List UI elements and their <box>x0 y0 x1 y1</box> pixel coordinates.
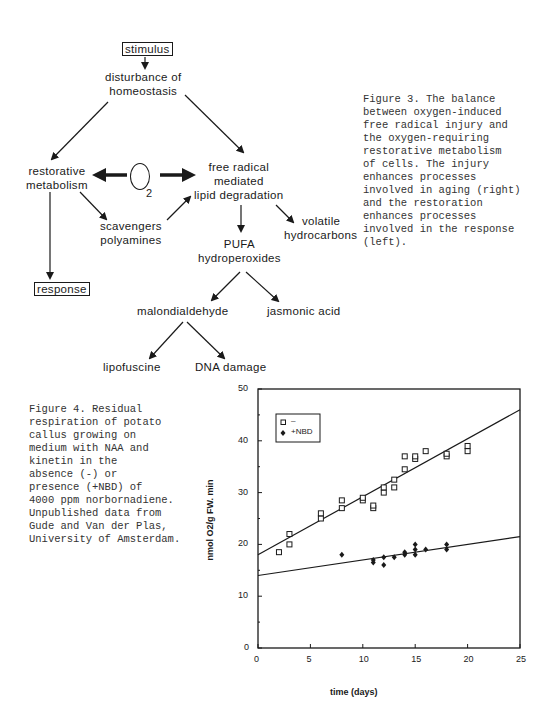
legend-square-icon <box>281 420 286 425</box>
data-point-diamond <box>339 552 344 558</box>
x-axis-title: time (days) <box>330 687 378 697</box>
data-point-square <box>339 498 344 503</box>
data-point-square <box>413 454 418 459</box>
data-point-square <box>392 477 397 482</box>
data-point-diamond <box>413 541 418 547</box>
data-point-square <box>392 485 397 490</box>
legend-label-nbd: +NBD <box>291 427 313 436</box>
y-tick-label: 10 <box>238 590 248 600</box>
data-point-square <box>402 467 407 472</box>
data-point-square <box>339 506 344 511</box>
data-point-diamond <box>381 554 386 560</box>
data-point-square <box>381 490 386 495</box>
data-point-square <box>287 542 292 547</box>
y-tick-label: 30 <box>238 487 248 497</box>
data-point-square <box>465 443 470 448</box>
data-point-diamond <box>381 562 386 568</box>
data-point-square <box>423 449 428 454</box>
data-point-square <box>465 449 470 454</box>
y-axis-title: nmol O2/g FW. min <box>205 455 215 585</box>
x-tick-label: 20 <box>464 654 474 664</box>
data-point-square <box>287 532 292 537</box>
x-tick-label: 5 <box>306 654 311 664</box>
data-point-diamond <box>423 547 428 553</box>
x-tick-label: 15 <box>411 654 421 664</box>
x-tick-label: 0 <box>254 654 259 664</box>
data-point-square <box>444 451 449 456</box>
data-point-square <box>381 485 386 490</box>
y-tick-label: 40 <box>238 435 248 445</box>
data-point-square <box>360 495 365 500</box>
y-tick-label: 20 <box>238 538 248 548</box>
legend-label-control: – <box>291 416 295 425</box>
x-tick-label: 25 <box>516 654 526 664</box>
data-point-square <box>318 511 323 516</box>
scatter-plot <box>0 0 553 719</box>
fit-line-nbd <box>258 537 520 576</box>
y-tick-label: 0 <box>244 642 249 652</box>
y-tick-label: 50 <box>238 383 248 393</box>
data-point-diamond <box>444 541 449 547</box>
data-point-square <box>318 516 323 521</box>
data-point-square <box>402 454 407 459</box>
data-point-square <box>276 550 281 555</box>
data-point-square <box>371 503 376 508</box>
x-tick-label: 10 <box>359 654 369 664</box>
